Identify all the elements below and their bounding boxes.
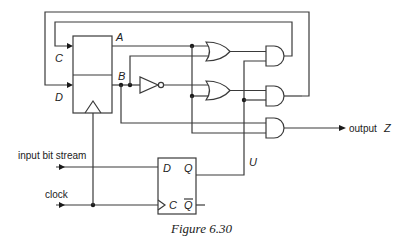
- arrow-input-icon: [59, 164, 65, 170]
- label-d: D: [55, 91, 63, 103]
- wire-a-to-and3: [192, 96, 266, 133]
- clock-label: clock: [45, 189, 69, 200]
- label-b: B: [118, 70, 125, 82]
- label-c: C: [55, 52, 63, 64]
- and-gate-2: [266, 86, 284, 106]
- ff-qbar-label: Q: [184, 199, 193, 211]
- output-var-label: Z: [383, 122, 392, 134]
- or-gate-1: [206, 42, 230, 61]
- input-label: input bit stream: [18, 150, 86, 161]
- not-bubble: [158, 82, 163, 87]
- not-gate: [140, 77, 158, 93]
- ff-c-label: C: [169, 199, 177, 211]
- ff-d-label: D: [163, 162, 171, 174]
- circuit-diagram: output Z D Q C Q input bit stream clock …: [0, 0, 408, 243]
- arrow-output-icon: [339, 125, 346, 131]
- arrow-clock-icon: [59, 202, 65, 208]
- arrow-d-icon: [67, 82, 73, 88]
- figure-caption: Figure 6.30: [170, 221, 232, 236]
- and-gate-3: [266, 118, 284, 138]
- ff-q-label: Q: [184, 162, 193, 174]
- arrow-c-icon: [67, 43, 73, 49]
- output-label: output: [349, 123, 377, 134]
- or-gate-2: [206, 81, 230, 100]
- label-u: U: [249, 156, 257, 168]
- and-gate-1: [266, 46, 284, 66]
- label-a: A: [115, 31, 123, 43]
